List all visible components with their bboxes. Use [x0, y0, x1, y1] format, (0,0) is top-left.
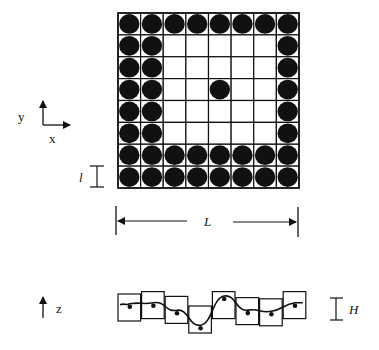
- particle: [142, 58, 162, 78]
- grid-cell: [254, 35, 277, 57]
- particle: [187, 145, 207, 165]
- particle: [119, 58, 139, 78]
- particle: [278, 123, 298, 143]
- particle: [142, 14, 162, 34]
- grid-cell: [231, 101, 254, 123]
- grid-cell: [163, 57, 186, 79]
- side-particle: [269, 312, 274, 317]
- particle: [119, 14, 139, 34]
- particle: [142, 80, 162, 100]
- particle: [119, 167, 139, 187]
- particle: [278, 145, 298, 165]
- diagram-canvas: y x l L z H: [0, 0, 379, 350]
- grid-cell: [186, 101, 209, 123]
- particle: [232, 14, 252, 34]
- grid-cell: [254, 101, 277, 123]
- grid-cell: [231, 79, 254, 101]
- particle: [210, 167, 230, 187]
- particle: [164, 167, 184, 187]
- xy-axes: y x: [18, 101, 70, 146]
- grid-cell: [209, 122, 232, 144]
- particle: [278, 14, 298, 34]
- x-axis-label: x: [49, 131, 56, 146]
- side-particle: [246, 311, 251, 316]
- particle: [278, 102, 298, 122]
- particle: [119, 145, 139, 165]
- grid-cell: [254, 57, 277, 79]
- particle: [210, 80, 230, 100]
- particle: [142, 167, 162, 187]
- grid-cell: [209, 35, 232, 57]
- grid-cell: [163, 79, 186, 101]
- top-view-grid: [118, 13, 299, 188]
- length-dimension: L: [116, 206, 298, 237]
- grid-cell: [231, 122, 254, 144]
- particle: [278, 80, 298, 100]
- particle: [255, 14, 275, 34]
- particle: [142, 102, 162, 122]
- grid-cell: [209, 101, 232, 123]
- particle: [187, 167, 207, 187]
- side-particle: [151, 303, 156, 308]
- particle: [210, 145, 230, 165]
- grid-cell: [163, 35, 186, 57]
- side-particle: [222, 297, 227, 302]
- z-axis-label: z: [56, 301, 62, 316]
- grid-cell: [186, 35, 209, 57]
- grid-cell: [231, 35, 254, 57]
- particle: [232, 167, 252, 187]
- particle: [255, 145, 275, 165]
- particle: [164, 145, 184, 165]
- grid-cell: [186, 122, 209, 144]
- particle: [142, 145, 162, 165]
- grid-cell: [254, 122, 277, 144]
- particle: [278, 36, 298, 56]
- particle: [255, 167, 275, 187]
- particle: [164, 14, 184, 34]
- y-axis-label: y: [18, 109, 25, 124]
- particle: [119, 123, 139, 143]
- side-particle: [128, 305, 133, 310]
- height-label: H: [348, 302, 359, 317]
- side-particle: [293, 303, 298, 308]
- height-dimension: H: [330, 298, 359, 320]
- side-particle: [198, 326, 203, 331]
- side-particle: [175, 311, 180, 316]
- grid-cell: [163, 101, 186, 123]
- particle: [142, 123, 162, 143]
- grid-cell: [209, 57, 232, 79]
- z-axis: z: [43, 297, 62, 318]
- cell-size-dimension: l: [79, 166, 104, 187]
- grid-cell: [163, 122, 186, 144]
- particle: [278, 167, 298, 187]
- grid-cell: [254, 79, 277, 101]
- particle: [210, 14, 230, 34]
- particle: [232, 145, 252, 165]
- grid-cell: [231, 57, 254, 79]
- grid-cell: [186, 57, 209, 79]
- particle: [119, 102, 139, 122]
- particle: [187, 14, 207, 34]
- length-label: L: [203, 214, 211, 229]
- particle: [119, 36, 139, 56]
- particle: [278, 58, 298, 78]
- cell-size-label: l: [79, 170, 83, 185]
- particle: [142, 36, 162, 56]
- grid-cell: [186, 79, 209, 101]
- particle: [119, 80, 139, 100]
- side-view: [118, 292, 306, 333]
